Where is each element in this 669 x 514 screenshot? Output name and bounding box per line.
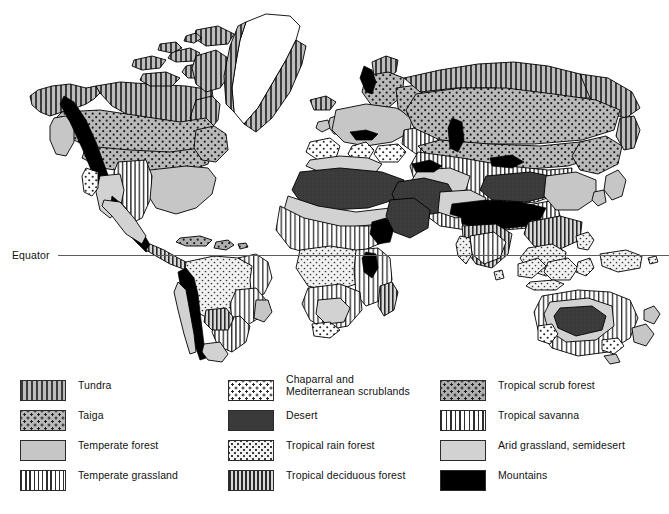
region-cuba bbox=[176, 236, 212, 246]
region-us-east-forest bbox=[144, 166, 216, 214]
region-new-zealand-south bbox=[632, 324, 654, 346]
legend-swatch-arid-grassland bbox=[440, 440, 486, 461]
region-iceland bbox=[310, 96, 336, 110]
legend-label-arid-grassland: Arid grassland, semidesert bbox=[498, 440, 669, 452]
legend-swatch-tropical-rain-forest bbox=[228, 440, 274, 461]
legend-swatch-tropical-deciduous-forest bbox=[228, 470, 274, 491]
region-korea bbox=[592, 190, 606, 206]
legend-swatch-mountains bbox=[440, 470, 486, 491]
region-ireland bbox=[316, 120, 330, 132]
legend-swatch-temperate-grassland bbox=[20, 470, 66, 491]
map-legend: Tundra Taiga Temperate forest Temperate … bbox=[0, 372, 669, 514]
legend-swatch-desert bbox=[228, 410, 274, 431]
region-arctic-island-3 bbox=[140, 72, 180, 86]
region-arctic-island-1 bbox=[132, 56, 166, 70]
equator-group: Equator bbox=[0, 246, 669, 266]
equator-line bbox=[58, 255, 669, 256]
legend-label-mountains: Mountains bbox=[498, 470, 669, 482]
legend-label-taiga: Taiga bbox=[78, 410, 248, 422]
region-new-zealand-north bbox=[644, 306, 660, 324]
legend-swatch-taiga bbox=[20, 410, 66, 431]
legend-label-tropical-savanna: Tropical savanna bbox=[498, 410, 669, 422]
region-brazil-atlantic-forest bbox=[254, 300, 272, 322]
region-tasmania bbox=[604, 354, 620, 364]
legend-label-temperate-forest: Temperate forest bbox=[78, 440, 248, 452]
map-area bbox=[0, 0, 669, 366]
equator-label: Equator bbox=[12, 246, 49, 264]
legend-label-tropical-scrub-forest: Tropical scrub forest bbox=[498, 380, 669, 392]
region-balkans-chaparral bbox=[374, 144, 406, 162]
region-japan bbox=[604, 170, 626, 200]
world-biome-map-figure: Equator Tundra Taiga Temperate forest Te… bbox=[0, 0, 669, 514]
legend-swatch-tundra bbox=[20, 380, 66, 401]
region-java bbox=[526, 280, 564, 290]
region-california-chaparral bbox=[82, 168, 98, 196]
region-sri-lanka bbox=[494, 270, 504, 280]
legend-label-temperate-grassland: Temperate grassland bbox=[78, 470, 248, 482]
region-madagascar bbox=[378, 282, 398, 316]
legend-label-tundra: Tundra bbox=[78, 380, 248, 392]
legend-swatch-chaparral bbox=[228, 380, 274, 401]
legend-swatch-temperate-forest bbox=[20, 440, 66, 461]
map-svg bbox=[0, 0, 669, 366]
legend-swatch-tropical-scrub-forest bbox=[440, 380, 486, 401]
region-china-temperate-forest bbox=[544, 172, 596, 210]
legend-swatch-tropical-savanna bbox=[440, 410, 486, 431]
